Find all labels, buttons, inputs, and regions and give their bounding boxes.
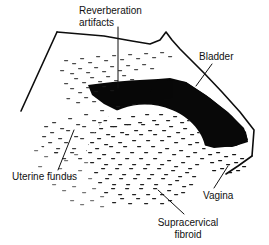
label-uterine-fundus: Uterine fundus (12, 171, 77, 182)
label-reverberation-artifacts-line2: artifacts (79, 17, 114, 28)
ultrasound-figure: Reverberation artifacts Bladder Uterine … (0, 0, 269, 245)
label-supracervical-fibroid-line1: Supracervical (158, 217, 219, 228)
label-vagina: Vagina (203, 190, 234, 201)
figure-canvas: Reverberation artifacts Bladder Uterine … (0, 0, 269, 245)
label-supracervical-fibroid-line2: fibroid (174, 229, 201, 240)
label-bladder: Bladder (199, 51, 234, 62)
label-reverberation-artifacts-line1: Reverberation (79, 5, 142, 16)
